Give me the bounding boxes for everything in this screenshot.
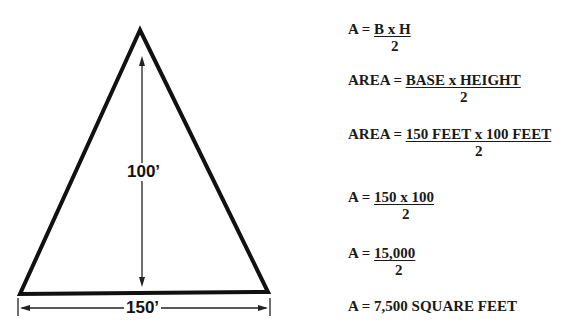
numerator: BASE x HEIGHT bbox=[406, 72, 521, 88]
result-formula: A = 7,500 SQUARE FEET bbox=[348, 298, 517, 315]
denominator: 2 bbox=[460, 89, 468, 106]
formula-5: A = 15,000 bbox=[348, 245, 415, 262]
formula-3: AREA = 150 FEET x 100 FEET bbox=[348, 126, 551, 143]
denominator: 2 bbox=[475, 143, 483, 160]
denominator: 2 bbox=[402, 206, 410, 223]
numerator: 150 FEET x 100 FEET bbox=[406, 126, 552, 142]
area-formulas: A = B x H 2 AREA = BASE x HEIGHT 2 AREA … bbox=[0, 0, 569, 335]
numerator: 15,000 bbox=[374, 245, 415, 261]
denominator: 2 bbox=[395, 262, 403, 279]
denominator: 2 bbox=[391, 38, 399, 55]
numerator: 150 x 100 bbox=[374, 189, 434, 205]
formula-2: AREA = BASE x HEIGHT bbox=[348, 72, 521, 89]
numerator: B x H bbox=[374, 21, 411, 37]
formula-4: A = 150 x 100 bbox=[348, 189, 434, 206]
formula-1: A = B x H bbox=[348, 21, 411, 38]
